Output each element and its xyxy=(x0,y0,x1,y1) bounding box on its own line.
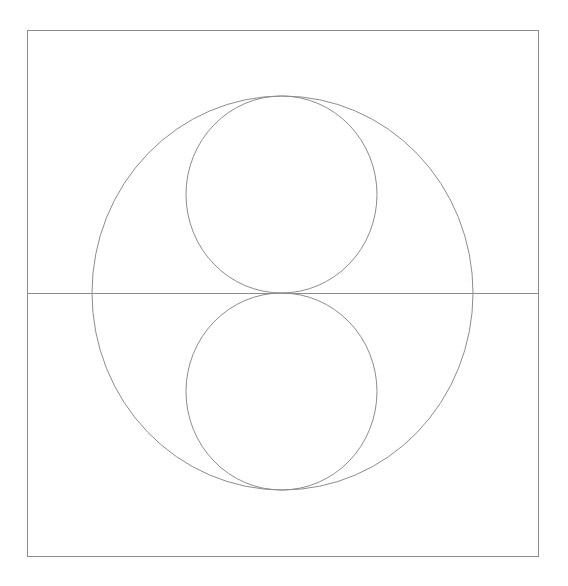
lower-inner-circle xyxy=(186,293,377,490)
diagram-canvas xyxy=(0,0,568,586)
upper-inner-circle xyxy=(186,96,377,293)
